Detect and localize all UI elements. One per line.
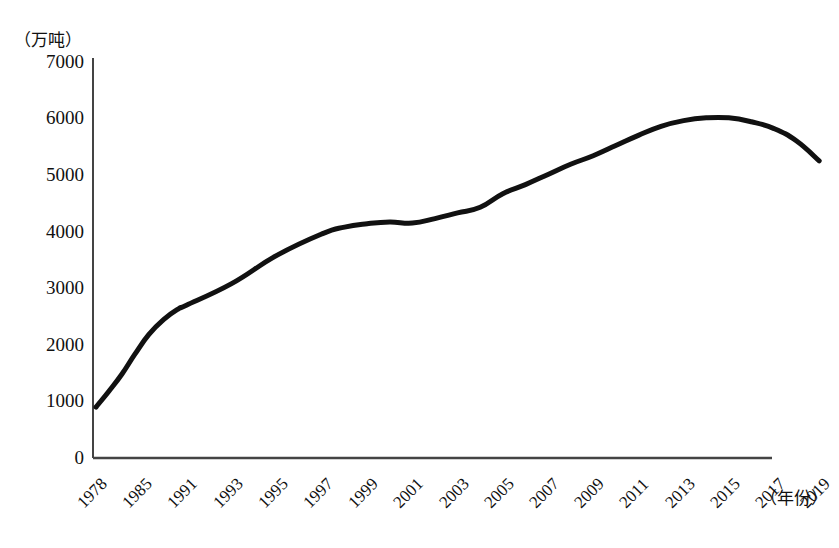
data-series-line [96,117,819,407]
axis-spines [93,58,772,458]
line-chart: （万吨） 01000200030004000500060007000 19781… [0,0,839,548]
plot-area [0,0,839,548]
